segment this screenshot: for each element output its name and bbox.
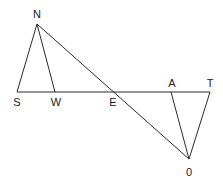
label-point-t: T (207, 77, 214, 89)
label-point-w: W (51, 96, 62, 108)
label-point-a: A (168, 77, 176, 89)
label-point-n: N (33, 8, 41, 20)
segment-a-o (171, 92, 189, 159)
segment-t-o (189, 92, 210, 159)
geometry-diagram: N S W E A T 0 (0, 0, 223, 189)
segment-n-s (17, 24, 37, 92)
label-point-e: E (109, 96, 116, 108)
label-point-o: 0 (186, 166, 192, 178)
segment-n-w (37, 24, 55, 92)
label-point-s: S (13, 96, 20, 108)
